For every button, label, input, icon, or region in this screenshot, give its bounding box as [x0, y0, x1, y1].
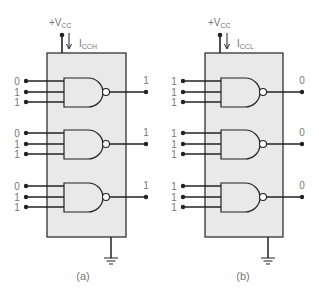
- svg-text:1: 1: [14, 202, 20, 213]
- caption-a: (a): [76, 270, 89, 282]
- svg-text:0: 0: [14, 128, 20, 139]
- ground-icon: [261, 258, 275, 264]
- vcc-terminal-a: [60, 33, 65, 38]
- nand-ic-diagram: +VCC ICCH 0 1 1 1: [0, 0, 319, 297]
- svg-text:1: 1: [14, 97, 20, 108]
- caption-b: (b): [236, 270, 249, 282]
- vcc-terminal-b: [218, 33, 223, 38]
- current-label-a: ICCH: [79, 38, 97, 50]
- nand-gate-a-3: 0 1 1 1: [14, 180, 149, 213]
- svg-text:1: 1: [171, 149, 177, 160]
- svg-text:0: 0: [299, 127, 305, 138]
- svg-text:1: 1: [143, 75, 149, 86]
- circuit-a: +VCC ICCH 0 1 1 1: [14, 17, 149, 282]
- svg-text:1: 1: [171, 181, 177, 192]
- nand-gate-b-2: 1 1 1 0: [171, 127, 305, 160]
- vcc-label-b: +VCC: [208, 17, 231, 29]
- ground-icon: [104, 258, 118, 264]
- svg-text:1: 1: [14, 149, 20, 160]
- nand-body: [64, 78, 103, 107]
- inversion-bubble: [103, 89, 110, 96]
- svg-text:1: 1: [143, 127, 149, 138]
- svg-text:1: 1: [171, 202, 177, 213]
- nand-gate-a-1: 0 1 1 1: [14, 75, 149, 108]
- vcc-label-a: +VCC: [49, 17, 72, 29]
- current-label-b: ICCL: [237, 38, 254, 50]
- svg-text:0: 0: [14, 181, 20, 192]
- svg-text:1: 1: [171, 76, 177, 87]
- nand-gate-b-1: 1 1 1 0: [171, 75, 305, 108]
- svg-text:1: 1: [143, 180, 149, 191]
- svg-text:0: 0: [299, 180, 305, 191]
- nand-gate-a-2: 0 1 1 1: [14, 127, 149, 160]
- circuit-b: +VCC ICCL 1 1 1 0 1 1: [171, 17, 305, 282]
- svg-text:1: 1: [171, 128, 177, 139]
- svg-text:0: 0: [299, 75, 305, 86]
- svg-text:1: 1: [171, 97, 177, 108]
- nand-gate-b-3: 1 1 1 0: [171, 180, 305, 213]
- svg-text:0: 0: [14, 76, 20, 87]
